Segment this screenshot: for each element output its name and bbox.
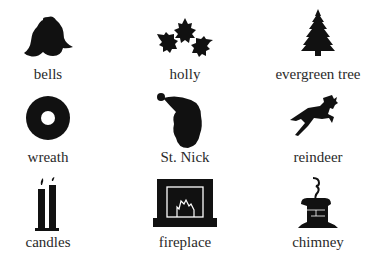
holly-icon [155,16,215,66]
reindeer-icon [286,93,346,145]
evergreen-tree-icon [298,9,338,61]
st-nick-icon [153,92,213,150]
candles-icon [33,177,63,233]
item-label: chimney [258,234,371,251]
fireplace-icon [153,177,217,229]
item-label: fireplace [125,234,245,251]
item-label: evergreen tree [258,66,371,83]
item-label: reindeer [258,149,371,166]
item-label: wreath [0,149,108,166]
chimney-icon [293,176,343,232]
item-label: bells [0,66,108,83]
wreath-icon [23,93,73,143]
item-label: candles [0,234,108,251]
item-label: holly [125,66,245,83]
item-label: St. Nick [125,149,245,166]
bells-icon [18,12,78,74]
